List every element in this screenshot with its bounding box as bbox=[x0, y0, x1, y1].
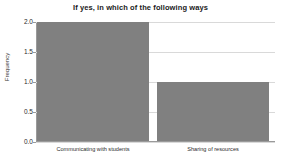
x-category-label: Sharing of resources bbox=[157, 146, 269, 152]
chart-title: If yes, in which of the following ways bbox=[0, 3, 281, 12]
y-tick-mark bbox=[33, 82, 36, 83]
y-tick-label: 2.0 bbox=[5, 18, 33, 25]
bar-chart-figure: If yes, in which of the following ways F… bbox=[0, 0, 281, 163]
y-tick-label: 0.0 bbox=[5, 138, 33, 145]
y-tick-mark bbox=[33, 112, 36, 113]
bar bbox=[37, 22, 149, 142]
y-tick-label: 0.5 bbox=[5, 108, 33, 115]
y-tick-mark bbox=[33, 142, 36, 143]
y-tick-mark bbox=[33, 22, 36, 23]
y-tick-label: 1.0 bbox=[5, 78, 33, 85]
y-axis-tick-labels: 0.00.51.01.52.0 bbox=[2, 22, 33, 142]
bar bbox=[157, 82, 269, 142]
y-tick-label: 1.5 bbox=[5, 48, 33, 55]
x-category-label: Communicating with students bbox=[37, 146, 149, 152]
gridline bbox=[36, 142, 275, 143]
plot-area bbox=[36, 22, 275, 142]
y-tick-mark bbox=[33, 52, 36, 53]
x-axis-line bbox=[36, 141, 275, 142]
